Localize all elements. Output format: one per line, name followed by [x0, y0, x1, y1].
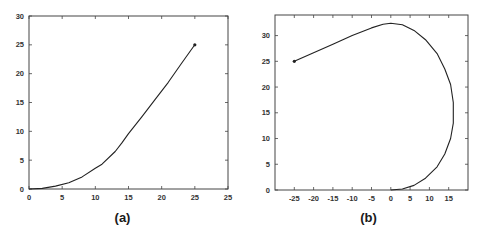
x-tick-label: 25	[191, 193, 199, 202]
y-tick-label: 25	[16, 40, 24, 49]
chart-panel-b: -25-20-15-10-5051015051015202530(b)	[262, 15, 468, 225]
x-tick-label: -10	[347, 194, 358, 203]
y-tick-label: 25	[262, 57, 270, 66]
x-tick-label: 20	[157, 193, 165, 202]
y-tick-label: 10	[262, 134, 270, 143]
plot-area-frame	[29, 16, 228, 189]
y-tick-label: 20	[16, 69, 24, 78]
figure-canvas: 051015202525051015202530(a) -25-20-15-10…	[0, 0, 480, 235]
y-tick-label: 5	[266, 160, 270, 169]
y-tick-label: 15	[262, 108, 270, 117]
x-tick-label: 25	[224, 193, 232, 202]
trajectory-line	[29, 45, 195, 189]
x-tick-label: -25	[289, 194, 300, 203]
endpoint-marker	[193, 43, 196, 46]
y-tick-label: 15	[16, 98, 24, 107]
y-tick-label: 10	[16, 127, 24, 136]
y-tick-label: 5	[20, 156, 24, 165]
x-tick-label: -15	[327, 194, 338, 203]
x-tick-label: -5	[368, 194, 375, 203]
y-tick-label: 0	[266, 186, 270, 195]
x-tick-label: 5	[60, 193, 64, 202]
endpoint-marker	[293, 60, 296, 63]
trajectory-line	[294, 23, 453, 190]
chart-panel-a: 051015202525051015202530(a)	[16, 12, 233, 226]
x-tick-label: -20	[308, 194, 319, 203]
y-tick-label: 30	[262, 31, 270, 40]
y-tick-label: 30	[16, 12, 24, 21]
x-tick-label: 10	[425, 194, 433, 203]
panel-caption: (a)	[115, 210, 131, 225]
y-tick-label: 0	[20, 185, 24, 194]
x-tick-label: 0	[389, 194, 393, 203]
panel-caption: (b)	[360, 210, 377, 225]
x-tick-label: 5	[408, 194, 412, 203]
x-tick-label: 15	[124, 193, 132, 202]
x-tick-label: 10	[91, 193, 99, 202]
x-tick-label: 0	[27, 193, 31, 202]
y-tick-label: 20	[262, 83, 270, 92]
x-tick-label: 15	[445, 194, 453, 203]
